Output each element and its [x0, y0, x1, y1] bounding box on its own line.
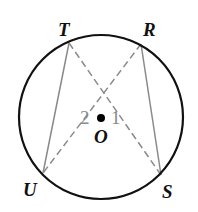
segment-TU	[43, 43, 69, 173]
label-O: O	[94, 126, 108, 147]
label-U: U	[23, 179, 38, 200]
segment-RU-dashed	[43, 44, 141, 173]
label-S: S	[162, 181, 173, 202]
segment-RS	[141, 44, 161, 175]
label-T: T	[58, 19, 71, 40]
angle-label-1: 1	[111, 107, 121, 128]
label-R: R	[142, 19, 156, 40]
center-point-O	[97, 114, 105, 122]
angle-label-2: 2	[80, 107, 90, 128]
circle-diagram: T R U S O 2 1	[0, 0, 198, 212]
